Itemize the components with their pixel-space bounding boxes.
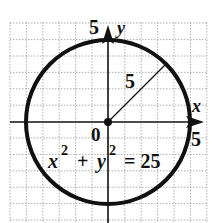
- svg-text:2: 2: [61, 143, 68, 158]
- x-tick-label: 5: [191, 128, 201, 150]
- axes: [10, 30, 200, 223]
- y-tick-label: 5: [89, 16, 99, 38]
- radius-label: 5: [125, 70, 135, 92]
- x-axis-label: x: [191, 96, 201, 116]
- circle-diagram: 5 y 5 x 5 0 x 2 + y 2 = 25: [0, 0, 219, 223]
- origin-dot: [104, 118, 112, 126]
- svg-text:2: 2: [109, 143, 116, 158]
- equation: x 2 + y 2 = 25: [47, 143, 160, 173]
- origin-label: 0: [91, 124, 101, 145]
- y-axis-label: y: [115, 18, 126, 38]
- svg-text:= 25: = 25: [124, 150, 160, 172]
- svg-text:+: +: [77, 150, 88, 172]
- svg-text:y: y: [95, 150, 106, 173]
- svg-text:x: x: [47, 150, 58, 172]
- radius-line: [108, 65, 165, 122]
